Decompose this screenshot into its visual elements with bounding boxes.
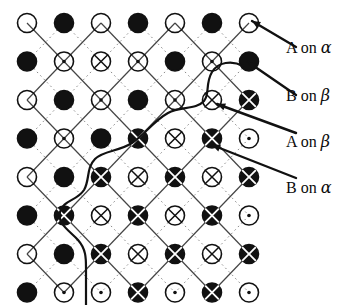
lattice-site-filled-circle-cross — [55, 206, 74, 225]
lattice-site-filled-circle-plain — [55, 14, 74, 33]
lattice-site-filled-circle-plain — [18, 52, 37, 71]
lattice-sites — [18, 14, 259, 303]
lattice-site-open-circle-dot — [166, 91, 185, 110]
legend-label-b-on-alpha-greek: α — [321, 178, 332, 197]
lattice-site-open-circle-cross — [92, 52, 111, 71]
legend-label-b-on-beta-greek: β — [321, 86, 330, 105]
figure-root: A on α B on β A on β B on α — [0, 0, 362, 305]
lattice-site-open-circle-dot — [166, 283, 185, 302]
lattice-site-open-circle-cross — [129, 168, 148, 187]
lattice-site-filled-circle-plain — [166, 52, 185, 71]
legend-label-b-on-beta-text: B on — [286, 87, 317, 104]
lattice-site-open-circle-cross — [92, 206, 111, 225]
lattice-site-open-circle-dot — [240, 283, 259, 302]
lattice-site-open-circle-dot — [55, 129, 74, 148]
lattice-site-filled-circle-plain — [55, 245, 74, 264]
lattice-site-filled-circle-cross — [129, 283, 148, 302]
lattice-site-filled-circle-plain — [203, 14, 222, 33]
lattice-site-filled-circle-plain — [129, 91, 148, 110]
legend-item-b-on-beta: B on β — [286, 86, 330, 105]
lattice-site-filled-circle-cross — [203, 283, 222, 302]
lattice-site-filled-circle-plain — [55, 168, 74, 187]
lattice-site-filled-circle-plain — [18, 129, 37, 148]
lattice-site-open-circle-dot — [203, 52, 222, 71]
lattice-site-filled-circle-plain — [18, 206, 37, 225]
lattice-site-open-circle-dot — [55, 283, 74, 302]
lattice-site-filled-circle-cross — [240, 245, 259, 264]
legend-label-a-on-beta-greek: β — [321, 132, 330, 151]
legend: A on α B on β A on β B on α — [286, 0, 362, 305]
lattice-site-open-circle-cross — [203, 168, 222, 187]
antiphase-boundary-curve — [60, 63, 243, 305]
lattice-site-filled-circle-cross — [240, 91, 259, 110]
lattice-site-filled-circle-cross — [166, 168, 185, 187]
lattice-site-open-circle-dot — [92, 91, 111, 110]
lattice-site-filled-circle-cross — [129, 206, 148, 225]
lattice-site-open-circle-dot — [240, 206, 259, 225]
lattice-site-open-circle-cross — [166, 129, 185, 148]
lattice-site-open-circle-dot — [129, 52, 148, 71]
lattice-site-open-circle-dot — [92, 283, 111, 302]
lattice-site-filled-circle-cross — [92, 168, 111, 187]
lattice-site-filled-circle-plain — [55, 91, 74, 110]
legend-item-b-on-alpha: B on α — [286, 178, 331, 197]
lattice-site-filled-circle-cross — [166, 245, 185, 264]
legend-label-a-on-alpha-greek: α — [321, 38, 332, 57]
lattice-site-filled-circle-cross — [92, 245, 111, 264]
lattice-site-open-circle-cross — [166, 206, 185, 225]
lattice-site-filled-circle-cross — [240, 168, 259, 187]
legend-label-a-on-beta-text: A on — [286, 133, 317, 150]
legend-label-a-on-alpha-text: A on — [286, 39, 317, 56]
legend-item-a-on-beta: A on β — [286, 132, 330, 151]
legend-item-a-on-alpha: A on α — [286, 38, 331, 57]
lattice-site-filled-circle-plain — [129, 14, 148, 33]
lattice-site-open-circle-dot — [55, 52, 74, 71]
lattice-site-filled-circle-plain — [18, 283, 37, 302]
lattice-site-open-circle-dot — [240, 129, 259, 148]
lattice-site-filled-circle-cross — [203, 206, 222, 225]
lattice-site-filled-circle-plain — [92, 129, 111, 148]
lattice-site-open-circle-cross — [203, 245, 222, 264]
legend-label-b-on-alpha-text: B on — [286, 179, 317, 196]
lattice-site-open-circle-cross — [129, 245, 148, 264]
